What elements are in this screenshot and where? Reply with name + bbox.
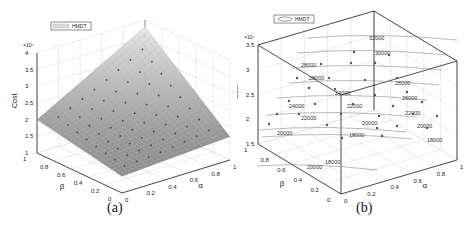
alpha-tick-label: 1 [460,164,464,170]
contour-label: 26000 [402,95,417,101]
sample-point-marker [142,48,144,50]
sample-point-marker [98,133,100,135]
sample-point-marker [86,139,88,141]
cost-tick-label: 2.5 [25,100,34,106]
contour-label: 24000 [335,90,350,96]
sample-point-marker [105,152,107,154]
alpha-axis-label: α [422,181,427,190]
sample-point-marker [124,165,126,167]
sample-point-marker [106,79,108,81]
beta-tick-label: 1 [23,156,27,162]
sample-point-marker [103,100,105,102]
sample-point-marker [396,125,398,127]
chart-panel-b: 00.20.40.60.8100.20.40.60.811.522.533.5×… [237,0,473,230]
cost-exponent-label: ×10⁴ [23,42,34,48]
sample-point-marker [436,115,438,117]
chart-panel-a: 00.20.40.60.8100.20.40.60.8111.522.533.5… [0,0,236,230]
legend-label: HMDT [72,23,86,29]
sample-point-marker [167,105,169,107]
sample-point-marker [350,62,352,64]
sample-point-marker [334,88,336,90]
cost-tick-label: 3.5 [25,67,34,73]
sample-point-marker [288,100,290,102]
contour-label: 20000 [307,164,322,170]
sample-point-marker [100,118,102,120]
contour-label: 18000 [427,137,442,143]
alpha-tick-label: 0.4 [390,184,399,190]
sample-point-marker [296,77,298,79]
sample-point-marker [136,93,138,95]
beta-tick-label: 0.8 [40,164,49,170]
contour-label: 24000 [289,103,304,109]
cost-tick-label: 4 [25,50,29,56]
sample-point-marker [119,135,121,137]
contour-plot-b: 00.20.40.60.8100.20.40.60.811.522.533.5×… [237,0,473,230]
cost-tick-label: 1.5 [25,133,34,139]
beta-tick-label: 0 [327,197,331,203]
alpha-tick-label: 0.2 [147,190,156,196]
sample-point-marker [196,135,198,137]
caption-b: (b) [356,200,372,216]
contour-label: 18000 [349,132,364,138]
sample-point-marker [114,159,116,161]
sample-point-marker [353,51,355,53]
contour-label: 22000 [301,115,316,121]
sample-point-marker [376,127,378,129]
beta-tick-label: 0.4 [74,180,83,186]
sample-point-marker [320,63,322,65]
sample-point-marker [268,123,270,125]
axis-line [341,160,457,194]
sample-point-marker [115,91,117,93]
sample-point-marker [378,115,380,117]
legend-label: HMDT [295,16,309,22]
sample-point-marker [95,146,97,148]
beta-axis-label: β [280,179,285,188]
alpha-tick-label: 0.8 [437,171,446,177]
beta-tick-label: 0.2 [91,188,100,194]
sample-point-marker [177,116,179,118]
grid-line [374,110,457,160]
contour-line [297,50,447,55]
sample-point-marker [396,77,398,79]
sample-point-marker [155,114,157,116]
sample-point-marker [117,148,119,150]
axis-line [258,144,341,194]
sample-point-marker [76,131,78,133]
cost-tick-label: 3.5 [246,42,255,48]
legend-surface-icon [53,24,69,28]
sample-point-marker [139,71,141,73]
sample-point-marker [421,101,423,103]
sample-point-marker [138,150,140,152]
sample-point-marker [328,77,330,79]
grid-line [324,150,440,184]
sample-point-marker [412,113,414,115]
contour-label: 20000 [277,130,292,136]
sample-point-marker [179,96,181,98]
sample-point-marker [82,98,84,100]
sample-point-marker [88,125,90,127]
surface-plot-a: 00.20.40.60.8100.20.40.60.8111.522.533.5… [0,0,236,230]
contour-label: 28000 [301,62,316,68]
sample-point-marker [151,61,153,63]
cost-axis-label: Cost [11,94,18,108]
contour-label: 20000 [362,120,377,126]
sample-point-marker [134,112,136,114]
sample-point-marker [208,129,210,131]
sample-point-marker [162,139,164,141]
sample-point-marker [364,79,366,81]
sample-point-marker [124,102,126,104]
sample-point-marker [127,81,129,83]
sample-point-marker [110,127,112,129]
beta-axis-label: β [60,182,65,191]
cost-tick-label: 1.5 [246,141,255,147]
alpha-tick-label: 0.2 [367,191,376,197]
sample-point-marker [184,141,186,143]
sample-point-marker [118,69,120,71]
sample-point-marker [131,129,133,131]
sample-point-marker [91,108,93,110]
contour-label: 22000 [347,103,362,109]
beta-tick-label: 0.8 [261,157,270,163]
sample-point-marker [165,123,167,125]
sample-point-marker [158,94,160,96]
beta-tick-label: 0.6 [277,167,286,173]
